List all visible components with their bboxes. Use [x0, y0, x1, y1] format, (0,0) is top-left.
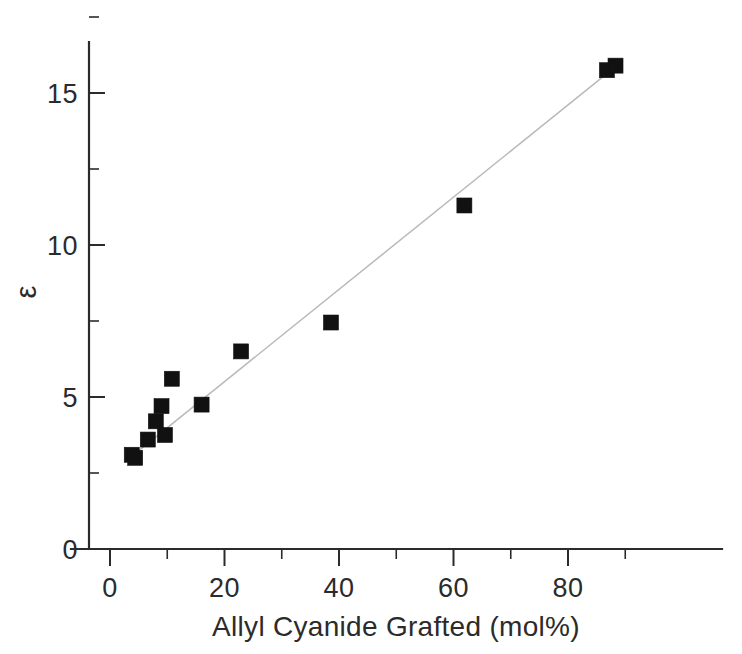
data-point-marker: [323, 315, 338, 330]
x-tick-label: 20: [209, 573, 240, 603]
data-point-marker: [234, 344, 249, 359]
x-axis-minor-ticks: [167, 549, 625, 559]
scatter-plot-svg: 051015 020406080 Allyl Cyanide Grafted (…: [0, 0, 742, 654]
x-tick-label: 80: [552, 573, 583, 603]
data-point-marker: [140, 432, 155, 447]
x-axis-major-ticks: [110, 549, 568, 566]
y-tick-label: 0: [62, 535, 78, 565]
data-point-marker: [148, 414, 163, 429]
y-tick-label: 15: [47, 79, 78, 109]
data-point-marker: [164, 371, 179, 386]
y-tick-label: 10: [47, 231, 78, 261]
x-axis-title: Allyl Cyanide Grafted (mol%): [212, 611, 580, 642]
y-axis-tick-labels: 051015: [47, 79, 78, 565]
x-tick-label: 0: [102, 573, 118, 603]
data-point-marker: [157, 428, 172, 443]
data-point-marker: [194, 397, 209, 412]
y-axis-title: ε: [10, 285, 42, 298]
axes-lines: [71, 42, 722, 549]
x-tick-label: 60: [438, 573, 469, 603]
x-axis-tick-labels: 020406080: [102, 573, 583, 603]
data-point-marker: [608, 58, 623, 73]
data-point-marker: [128, 450, 143, 465]
chart-figure: 051015 020406080 Allyl Cyanide Grafted (…: [0, 0, 742, 654]
x-tick-label: 40: [323, 573, 354, 603]
data-point-marker: [457, 198, 472, 213]
y-tick-label: 5: [62, 383, 78, 413]
data-point-marker: [154, 399, 169, 414]
